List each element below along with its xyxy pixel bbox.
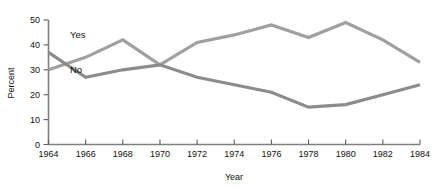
y-tick-label: 50 [30,15,40,25]
x-tick-label: 1982 [373,149,393,159]
x-tick-label: 1964 [38,149,58,159]
line-chart: 01020304050 Percent 19641966196819701972… [0,0,442,187]
y-tick-label: 40 [30,40,40,50]
series-label-yes: Yes [70,29,86,40]
x-tick-label: 1970 [150,149,170,159]
y-tick-label: 10 [30,115,40,125]
series-label-no: No [70,64,82,75]
x-tick-label: 1984 [410,149,430,159]
y-axis-title: Percent [6,67,16,99]
x-tick-label: 1972 [187,149,207,159]
x-tick-label: 1974 [224,149,244,159]
x-tick-label: 1978 [299,149,319,159]
x-axis-title: Year [225,172,243,182]
x-tick-label: 1968 [113,149,133,159]
chart-canvas: 01020304050 Percent 19641966196819701972… [0,0,442,187]
x-tick-label: 1976 [261,149,281,159]
y-tick-label: 20 [30,90,40,100]
y-tick-label: 30 [30,65,40,75]
x-tick-label: 1980 [336,149,356,159]
x-tick-label: 1966 [76,149,96,159]
